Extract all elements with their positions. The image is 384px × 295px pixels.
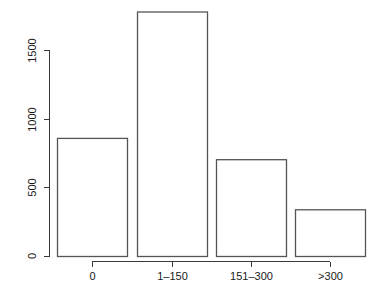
bar-0 [58,138,128,256]
x-tick-label-1: 1–150 [157,270,188,282]
x-tick-label-3: >300 [318,270,343,282]
y-tick-label-1500: 1500 [26,38,38,62]
bar-gt300 [296,210,366,257]
plot-canvas: 0 500 1000 1500 0 1–150 151–300 >300 [0,0,384,295]
bar-151-300 [217,160,287,257]
bar-1-150 [138,12,208,257]
y-tick-label-1000: 1000 [26,107,38,131]
y-tick-label-500: 500 [26,178,38,196]
x-tick-label-0: 0 [89,270,95,282]
y-tick-label-0: 0 [26,253,38,259]
bar-chart-figure: 0 500 1000 1500 0 1–150 151–300 >300 [0,0,384,295]
x-tick-label-2: 151–300 [230,270,273,282]
